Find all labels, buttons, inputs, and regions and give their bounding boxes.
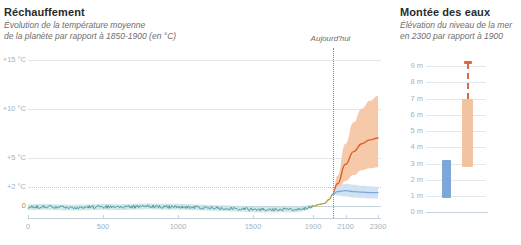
sea-level-bar-cap	[464, 61, 472, 64]
sea-level-y-label: 6 m	[396, 110, 423, 119]
x-tick-mark	[178, 215, 179, 219]
sea-level-gridline	[426, 196, 486, 197]
sea-level-chart: 0 m1 m2 m3 m4 m5 m6 m7 m8 m9 m	[396, 52, 521, 228]
sea-level-y-label: 8 m	[396, 77, 423, 86]
right-panel-subtitle: Élévation du niveau de la mer en 2300 pa…	[400, 20, 512, 41]
sea-level-y-label: 9 m	[396, 61, 423, 70]
sea-level-gridline	[426, 82, 486, 83]
x-tick-mark	[378, 215, 379, 219]
sea-level-gridline	[426, 131, 486, 132]
sea-level-gridline	[426, 212, 488, 213]
x-tick-label: 0	[26, 222, 30, 231]
sea-level-bar	[442, 160, 451, 197]
sea-level-gridline	[426, 180, 486, 181]
left-panel-title: Réchauffement	[4, 6, 85, 18]
sea-level-y-label: 2 m	[396, 175, 423, 184]
x-tick-mark	[28, 215, 29, 219]
x-tick-label: 500	[97, 222, 110, 231]
x-axis-line	[28, 218, 381, 219]
series-path	[313, 195, 333, 207]
sea-level-gridline	[426, 66, 486, 67]
temperature-plot-area	[0, 52, 381, 228]
x-tick-label: 1000	[170, 222, 187, 231]
x-tick-mark	[253, 215, 254, 219]
x-tick-mark	[346, 215, 347, 219]
sea-level-gridline	[426, 99, 486, 100]
right-panel-title: Montée des eaux	[400, 6, 490, 18]
today-annotation-label: Aujourd'hui	[311, 34, 351, 43]
sea-level-bar	[462, 99, 473, 167]
x-tick-mark	[103, 215, 104, 219]
sea-level-y-label: 4 m	[396, 142, 423, 151]
x-tick-label: 2100	[337, 222, 354, 231]
left-panel-subtitle-line2: de la planète par rapport à 1850-1900 (e…	[4, 31, 176, 42]
left-panel-subtitle: Évolution de la température moyenne de l…	[4, 20, 176, 41]
x-tick-mark	[313, 215, 314, 219]
climate-infographic: Réchauffement Évolution de la températur…	[0, 0, 521, 245]
sea-level-y-label: 0 m	[396, 207, 423, 216]
x-tick-label: 2300	[370, 222, 387, 231]
sea-level-y-label: 7 m	[396, 94, 423, 103]
temperature-chart: +15 °C +10 °C +5 °C +2 °C 0 Aujourd'hui …	[0, 52, 381, 228]
temperature-series-svg	[0, 52, 381, 228]
left-panel-subtitle-line1: Évolution de la température moyenne	[4, 20, 176, 31]
right-panel-subtitle-line2: en 2300 par rapport à 1900	[400, 31, 512, 42]
sea-level-gridline	[426, 147, 486, 148]
sea-level-y-label: 3 m	[396, 159, 423, 168]
sea-level-gridline	[426, 164, 486, 165]
x-tick-label: 1500	[245, 222, 262, 231]
sea-level-gridline	[426, 115, 486, 116]
right-panel-subtitle-line1: Élévation du niveau de la mer	[400, 20, 512, 31]
sea-level-bar-dashed-extension	[467, 63, 469, 99]
today-vertical-line	[333, 48, 334, 218]
sea-level-y-label: 5 m	[396, 126, 423, 135]
x-tick-label: 1900	[305, 222, 322, 231]
sea-level-y-label: 1 m	[396, 191, 423, 200]
